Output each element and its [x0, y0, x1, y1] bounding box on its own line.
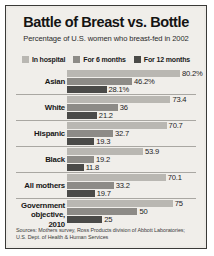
bar — [67, 112, 97, 119]
bar-row: 75 — [67, 200, 204, 207]
group-separator — [16, 172, 196, 173]
bar-value-label: 21.2 — [99, 111, 113, 120]
bar-row: 32.7 — [67, 130, 204, 137]
chart-group: Asian80.2%46.2%28.1% — [8, 69, 204, 95]
sources-line-2: U.S. Dept. of Health & Human Services — [16, 234, 198, 241]
bar-row: 19.3 — [67, 138, 204, 145]
bar-value-label: 11.8 — [86, 163, 99, 172]
group-label: All mothers — [8, 181, 65, 190]
bar-value-label: 28.1% — [109, 85, 130, 94]
group-label: White — [8, 103, 65, 112]
legend-swatch-icon — [73, 56, 80, 63]
group-label: Hispanic — [8, 129, 65, 138]
bar-row: 53.9 — [67, 148, 204, 155]
group-label-line: Asian — [8, 77, 65, 86]
group-label-line: objective, — [8, 210, 65, 219]
chart-group: Black53.919.211.8 — [8, 147, 204, 173]
legend-item-label: In hospital — [32, 56, 65, 63]
page-title: Battle of Breast vs. Bottle — [8, 14, 204, 30]
bar-row: 21.2 — [67, 112, 204, 119]
bar-value-label: 19.7 — [97, 189, 111, 198]
chart-group: Governmentobjective,2010755025 — [8, 199, 204, 225]
bar-value-label: 32.7 — [115, 129, 129, 138]
chart-plot-area: Asian80.2%46.2%28.1%White73.43621.2Hispa… — [8, 69, 204, 227]
legend-item: In hospital — [22, 56, 65, 63]
bar — [67, 200, 173, 207]
chart-group: All mothers70.133.219.7 — [8, 173, 204, 199]
bar — [67, 70, 180, 77]
bar-value-label: 19.3 — [96, 137, 110, 146]
group-separator — [16, 146, 196, 147]
group-bars: 53.919.211.8 — [67, 148, 204, 171]
bar — [67, 138, 94, 145]
group-label: Black — [8, 155, 65, 164]
sources-line-1: Sources: Mothers survey, Ross Products d… — [16, 227, 198, 234]
group-label: Asian — [8, 77, 65, 86]
bar-row: 28.1% — [67, 86, 204, 93]
bar-value-label: 73.4 — [172, 95, 186, 104]
group-label-line: Government — [8, 201, 65, 210]
bar-value-label: 53.9 — [145, 147, 159, 156]
group-separator — [16, 94, 196, 95]
group-separator — [16, 198, 196, 199]
chart-group: Hispanic70.732.719.3 — [8, 121, 204, 147]
bar-value-label: 50 — [139, 207, 147, 216]
group-bars: 755025 — [67, 200, 204, 223]
group-label-line: Hispanic — [8, 129, 65, 138]
bar-row: 70.1 — [67, 174, 204, 181]
group-bars: 73.43621.2 — [67, 96, 204, 119]
group-label-line: Black — [8, 155, 65, 164]
bar — [67, 216, 102, 223]
bar — [67, 190, 95, 197]
bar-value-label: 25 — [104, 215, 112, 224]
bar-value-label: 70.1 — [168, 173, 182, 182]
bar-row: 36 — [67, 104, 204, 111]
bar-row: 70.7 — [67, 122, 204, 129]
bar-value-label: 46.2% — [134, 77, 155, 86]
bar-row: 25 — [67, 216, 204, 223]
bar-row: 33.2 — [67, 182, 204, 189]
legend-swatch-icon — [22, 56, 29, 63]
bar-value-label: 36 — [120, 103, 128, 112]
chart-subtitle: Percentage of U.S. women who breast-fed … — [8, 34, 204, 43]
group-label: Governmentobjective,2010 — [8, 201, 65, 229]
chart-figure: Battle of Breast vs. Bottle Percentage o… — [5, 5, 207, 249]
bar — [67, 208, 137, 215]
bar-row: 11.8 — [67, 164, 204, 171]
bar-value-label: 75 — [175, 199, 183, 208]
bar — [67, 86, 107, 93]
chart-inner-panel: Battle of Breast vs. Bottle Percentage o… — [8, 8, 204, 246]
chart-legend: In hospitalFor 6 monthsFor 12 months — [8, 56, 204, 63]
group-separator — [16, 120, 196, 121]
group-bars: 70.133.219.7 — [67, 174, 204, 197]
chart-sources: Sources: Mothers survey, Ross Products d… — [16, 227, 198, 241]
bar-value-label: 80.2% — [182, 69, 203, 78]
bar-row: 50 — [67, 208, 204, 215]
group-bars: 70.732.719.3 — [67, 122, 204, 145]
bar — [67, 96, 170, 103]
legend-item-label: For 6 months — [83, 56, 126, 63]
group-label-line: All mothers — [8, 181, 65, 190]
legend-item: For 6 months — [73, 56, 126, 63]
chart-group: White73.43621.2 — [8, 95, 204, 121]
bar — [67, 164, 84, 171]
legend-item-label: For 12 months — [144, 56, 190, 63]
bar-row: 46.2% — [67, 78, 204, 85]
bar-row: 19.7 — [67, 190, 204, 197]
bar-row: 73.4 — [67, 96, 204, 103]
bar-value-label: 33.2 — [116, 181, 130, 190]
group-bars: 80.2%46.2%28.1% — [67, 70, 204, 93]
group-label-line: White — [8, 103, 65, 112]
legend-swatch-icon — [134, 56, 141, 63]
legend-item: For 12 months — [134, 56, 190, 63]
bar-value-label: 70.7 — [169, 121, 183, 130]
